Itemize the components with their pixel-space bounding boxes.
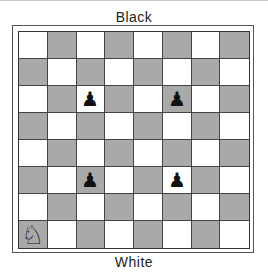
- square-h4[interactable]: [220, 140, 249, 167]
- square-d1[interactable]: [105, 221, 134, 248]
- square-c6[interactable]: ♟: [77, 86, 106, 113]
- square-a2[interactable]: [19, 194, 48, 221]
- square-a1[interactable]: ♘: [19, 221, 48, 248]
- square-h8[interactable]: [220, 32, 249, 59]
- square-h7[interactable]: [220, 59, 249, 86]
- square-f5[interactable]: [163, 113, 192, 140]
- square-d4[interactable]: [105, 140, 134, 167]
- black-pawn-icon[interactable]: ♟: [81, 170, 99, 190]
- square-a3[interactable]: [19, 167, 48, 194]
- square-e4[interactable]: [134, 140, 163, 167]
- square-h6[interactable]: [220, 86, 249, 113]
- square-c2[interactable]: [77, 194, 106, 221]
- black-pawn-icon[interactable]: ♟: [81, 89, 99, 109]
- square-d2[interactable]: [105, 194, 134, 221]
- square-e6[interactable]: [134, 86, 163, 113]
- square-g1[interactable]: [192, 221, 221, 248]
- square-b1[interactable]: [48, 221, 77, 248]
- square-e5[interactable]: [134, 113, 163, 140]
- square-b6[interactable]: [48, 86, 77, 113]
- white-knight-icon[interactable]: ♘: [21, 222, 44, 248]
- square-b5[interactable]: [48, 113, 77, 140]
- square-g4[interactable]: [192, 140, 221, 167]
- square-g3[interactable]: [192, 167, 221, 194]
- square-d3[interactable]: [105, 167, 134, 194]
- square-b7[interactable]: [48, 59, 77, 86]
- square-e2[interactable]: [134, 194, 163, 221]
- square-b8[interactable]: [48, 32, 77, 59]
- square-c5[interactable]: [77, 113, 106, 140]
- square-f2[interactable]: [163, 194, 192, 221]
- square-g5[interactable]: [192, 113, 221, 140]
- square-a6[interactable]: [19, 86, 48, 113]
- top-divider: [0, 0, 268, 1]
- square-d7[interactable]: [105, 59, 134, 86]
- square-c1[interactable]: [77, 221, 106, 248]
- black-pawn-icon[interactable]: ♟: [168, 89, 186, 109]
- square-d5[interactable]: [105, 113, 134, 140]
- square-e8[interactable]: [134, 32, 163, 59]
- square-f1[interactable]: [163, 221, 192, 248]
- square-c7[interactable]: [77, 59, 106, 86]
- white-side-label: White: [0, 254, 268, 270]
- square-e7[interactable]: [134, 59, 163, 86]
- square-f8[interactable]: [163, 32, 192, 59]
- square-g7[interactable]: [192, 59, 221, 86]
- black-pawn-icon[interactable]: ♟: [168, 170, 186, 190]
- square-f7[interactable]: [163, 59, 192, 86]
- square-e3[interactable]: [134, 167, 163, 194]
- square-g8[interactable]: [192, 32, 221, 59]
- square-a5[interactable]: [19, 113, 48, 140]
- square-h1[interactable]: [220, 221, 249, 248]
- square-f4[interactable]: [163, 140, 192, 167]
- square-g2[interactable]: [192, 194, 221, 221]
- black-side-label: Black: [0, 9, 268, 25]
- square-h5[interactable]: [220, 113, 249, 140]
- square-d8[interactable]: [105, 32, 134, 59]
- square-b4[interactable]: [48, 140, 77, 167]
- square-c8[interactable]: [77, 32, 106, 59]
- square-h2[interactable]: [220, 194, 249, 221]
- square-c3[interactable]: ♟: [77, 167, 106, 194]
- square-a7[interactable]: [19, 59, 48, 86]
- square-d6[interactable]: [105, 86, 134, 113]
- square-b2[interactable]: [48, 194, 77, 221]
- square-g6[interactable]: [192, 86, 221, 113]
- square-a4[interactable]: [19, 140, 48, 167]
- square-b3[interactable]: [48, 167, 77, 194]
- square-f3[interactable]: ♟: [163, 167, 192, 194]
- square-h3[interactable]: [220, 167, 249, 194]
- square-f6[interactable]: ♟: [163, 86, 192, 113]
- square-c4[interactable]: [77, 140, 106, 167]
- chess-board[interactable]: ♟♟♟♟♘: [18, 31, 250, 249]
- square-a8[interactable]: [19, 32, 48, 59]
- square-e1[interactable]: [134, 221, 163, 248]
